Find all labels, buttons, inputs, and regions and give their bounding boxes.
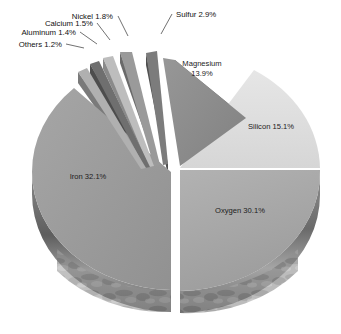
slice-label-silicon: Silicon 15.1% — [248, 122, 294, 131]
leader-line-aluminum — [80, 32, 97, 44]
slice-label-magnesium-value: 13.9% — [191, 69, 213, 78]
callout-label-sulfur: Sulfur 2.9% — [176, 10, 216, 19]
callout-label-aluminum: Aluminum 1.4% — [21, 28, 76, 37]
slice-top-oxygen — [180, 170, 320, 291]
leader-line-others — [66, 44, 84, 48]
pie-chart-svg: Magnesium 13.9% Silicon 15.1% Oxygen 30.… — [0, 0, 341, 334]
leader-line-nickel — [118, 16, 128, 36]
pie-top-faces — [32, 51, 320, 291]
slice-label-oxygen: Oxygen 30.1% — [215, 206, 265, 215]
slice-label-iron: Iron 32.1% — [70, 172, 107, 181]
slice-top-iron — [32, 88, 171, 290]
leader-line-sulfur — [161, 14, 172, 34]
leader-line-calcium — [97, 23, 110, 40]
pie-chart-figure: Magnesium 13.9% Silicon 15.1% Oxygen 30.… — [0, 0, 341, 334]
callout-label-others: Others 1.2% — [19, 40, 62, 49]
callout-label-nickel: Nickel 1.8% — [72, 12, 113, 21]
slice-label-magnesium-name: Magnesium — [182, 59, 221, 68]
